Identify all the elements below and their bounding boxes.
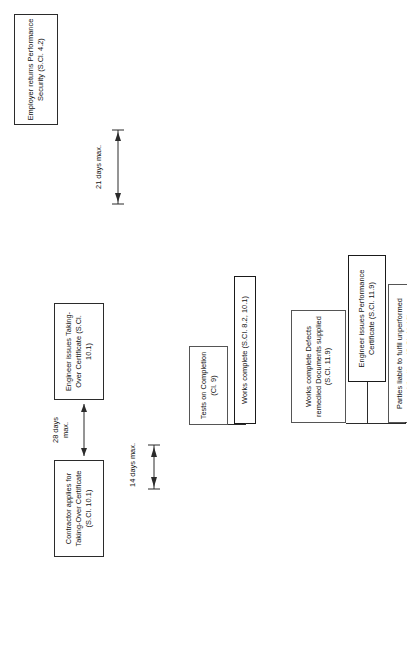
duration-28-days-toc: 28 days max. [51, 404, 71, 456]
connector-certificate-to-parties-h [405, 422, 406, 424]
node-employer-returns-performance-security: Employer returns Performance Security (S… [14, 14, 58, 125]
dimension-arrow-14-days-toc [148, 444, 160, 490]
node-parties-liable-unperformed-obligations: Parties liable to fulfil unperformed obl… [388, 284, 407, 423]
node-engineer-issues-taking-over-certificate: Engineer issues Taking-Over Certificate … [54, 303, 104, 400]
node-works-complete: Works complete (S.Cl. 8.2, 10.1) [234, 276, 256, 424]
diagram-canvas: Contractor applies for Taking-Over Certi… [0, 0, 407, 670]
duration-14-days-toc: 14 days max. [128, 426, 138, 504]
connector-certificate-to-parties [367, 423, 405, 424]
connector-tests-works-vertical [228, 424, 245, 425]
node-contractor-applies: Contractor applies for Taking-Over Certi… [54, 460, 104, 557]
connector-defects-to-certificate-h [367, 382, 368, 424]
node-engineer-issues-performance-certificate: Engineer issues Performance Certificate … [348, 255, 386, 382]
connector-tests-to-works [245, 423, 246, 425]
connector-defects-to-certificate [346, 423, 367, 424]
dimension-arrow-21-days-security [112, 129, 124, 205]
duration-21-days-security: 21 days max. [94, 130, 104, 204]
dimension-arrow-28-days-toc [79, 402, 89, 458]
node-works-complete-defects-remedied: Works complete Defects remedied Document… [291, 310, 346, 423]
node-tests-on-completion: Tests on Completion (Cl. 9) [189, 346, 228, 425]
